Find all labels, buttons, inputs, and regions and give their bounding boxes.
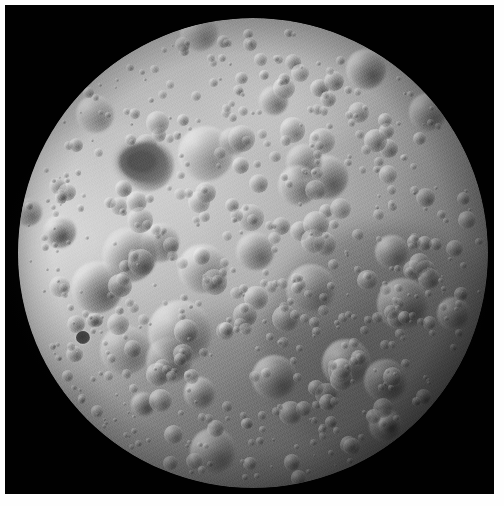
crater-small bbox=[265, 281, 277, 293]
crater-medium bbox=[313, 232, 337, 256]
crater-small bbox=[393, 415, 399, 421]
crater-small bbox=[189, 470, 194, 475]
crater-medium bbox=[340, 436, 357, 453]
crater-small bbox=[107, 354, 116, 363]
crater-small bbox=[334, 464, 337, 467]
crater-large bbox=[286, 144, 322, 180]
crater-small bbox=[159, 227, 167, 235]
crater-large bbox=[76, 95, 114, 133]
crater-small bbox=[233, 85, 243, 95]
crater-large bbox=[375, 235, 409, 269]
crater-medium bbox=[310, 79, 328, 97]
crater-small bbox=[279, 302, 289, 312]
crater-small bbox=[309, 232, 313, 236]
crater-small bbox=[127, 411, 130, 414]
crater-small bbox=[148, 322, 152, 326]
crater-small bbox=[262, 319, 267, 324]
crater-small bbox=[401, 154, 408, 161]
crater-small bbox=[427, 267, 430, 270]
crater-small bbox=[277, 340, 282, 345]
crater-small bbox=[376, 236, 382, 242]
crater-small bbox=[345, 253, 349, 257]
crater-small bbox=[461, 291, 464, 294]
crater-small bbox=[92, 94, 99, 101]
crater-medium bbox=[319, 204, 333, 218]
crater-small bbox=[377, 194, 381, 198]
crater-small bbox=[105, 112, 110, 117]
crater-small bbox=[444, 316, 449, 321]
crater-small bbox=[57, 356, 62, 361]
crater-small bbox=[271, 246, 278, 253]
crater-small bbox=[422, 123, 425, 126]
crater-small bbox=[255, 346, 260, 351]
crater-medium bbox=[163, 456, 178, 471]
crater-medium bbox=[379, 123, 395, 139]
crater-small bbox=[262, 269, 270, 277]
crater-large bbox=[71, 261, 123, 313]
crater-small bbox=[185, 444, 189, 448]
crater-medium bbox=[378, 113, 392, 127]
crater-small bbox=[187, 440, 192, 445]
crater-small bbox=[273, 55, 280, 62]
crater-small bbox=[395, 329, 405, 339]
crater-small bbox=[99, 330, 103, 334]
crater-small bbox=[383, 382, 387, 386]
crater-small bbox=[443, 218, 448, 223]
crater-large bbox=[148, 300, 212, 364]
crater-small bbox=[59, 203, 62, 206]
crater-small bbox=[388, 202, 396, 210]
crater-small bbox=[207, 461, 212, 466]
crater-large bbox=[278, 165, 318, 205]
crater-small bbox=[78, 394, 85, 401]
crater-small bbox=[102, 424, 107, 429]
crater-small bbox=[349, 357, 359, 367]
crater-small bbox=[396, 76, 401, 81]
crater-small bbox=[351, 314, 357, 320]
crater-small bbox=[42, 289, 45, 292]
crater-small bbox=[223, 39, 231, 47]
crater-large bbox=[346, 49, 386, 89]
crater-small bbox=[354, 88, 362, 96]
crater-small bbox=[309, 317, 320, 328]
crater-small bbox=[207, 54, 215, 62]
crater-small bbox=[423, 375, 427, 379]
crater-medium bbox=[175, 37, 190, 52]
crater-medium bbox=[423, 316, 436, 329]
crater-small bbox=[334, 320, 340, 326]
crater-small bbox=[61, 292, 68, 299]
crater-small bbox=[176, 257, 188, 269]
crater-medium bbox=[284, 29, 292, 37]
crater-small bbox=[344, 86, 352, 94]
crater-small bbox=[129, 444, 134, 449]
crater-small bbox=[195, 222, 200, 227]
crater-small bbox=[85, 235, 89, 239]
crater-medium bbox=[305, 180, 326, 201]
moon-photograph-page: Moon full-disc far side bbox=[0, 0, 504, 506]
crater-small bbox=[350, 379, 355, 384]
crater-small bbox=[51, 178, 56, 183]
crater-small bbox=[88, 315, 93, 320]
crater-medium bbox=[324, 71, 344, 91]
crater-small bbox=[272, 438, 275, 441]
crater-medium bbox=[177, 114, 188, 125]
crater-medium bbox=[407, 235, 421, 249]
crater-small bbox=[301, 168, 308, 175]
crater-small bbox=[178, 153, 183, 158]
crater-large bbox=[286, 264, 336, 314]
crater-small bbox=[414, 294, 419, 299]
crater-small bbox=[268, 232, 281, 245]
crater-small bbox=[344, 364, 350, 370]
crater-medium bbox=[244, 286, 268, 310]
crater-medium bbox=[379, 165, 398, 184]
crater-small bbox=[221, 108, 232, 119]
crater-small bbox=[278, 337, 289, 348]
crater-small bbox=[228, 113, 237, 122]
crater-small bbox=[216, 163, 221, 168]
crater-small bbox=[143, 78, 146, 81]
crater-small bbox=[247, 214, 258, 225]
crater-small bbox=[318, 305, 329, 316]
crater-small bbox=[455, 329, 463, 337]
crater-small bbox=[98, 83, 102, 87]
crater-medium bbox=[278, 73, 290, 85]
crater-small bbox=[354, 266, 360, 272]
